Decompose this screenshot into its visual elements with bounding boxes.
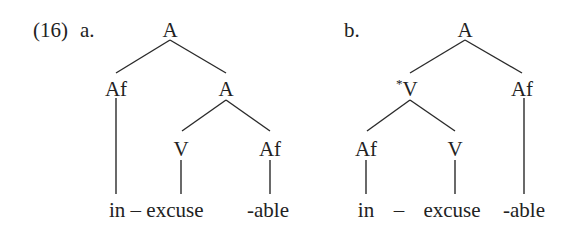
node-b-root: A <box>457 18 473 42</box>
leaf-b-dash: – <box>393 198 405 222</box>
leaf-a-in-excuse: in – excuse <box>109 198 203 222</box>
node-a-root: A <box>162 18 178 42</box>
node-a-v: V <box>173 137 188 161</box>
edge-a-a-v <box>182 100 226 131</box>
edge-b-v-af <box>367 100 410 131</box>
node-a-left-af: Af <box>105 77 127 101</box>
leaf-a-able: -able <box>247 198 289 222</box>
tree-b: A * V Af Af V in – excuse -able <box>355 18 545 222</box>
node-b-af: Af <box>355 137 377 161</box>
tree-a: A Af A V Af in – excuse -able <box>105 18 289 222</box>
edge-a-root-right <box>170 40 226 73</box>
edge-b-root-right <box>465 40 522 73</box>
node-b-right-af: Af <box>511 77 533 101</box>
node-b-left-v: V <box>402 77 417 101</box>
leaf-b-in: in <box>358 198 375 222</box>
node-a-af: Af <box>259 137 281 161</box>
edge-a-root-left <box>116 40 170 73</box>
tree-b-label: b. <box>344 18 360 42</box>
tree-a-label: a. <box>80 18 95 42</box>
edge-b-v-v <box>410 100 455 131</box>
leaf-b-able: -able <box>503 198 545 222</box>
node-b-v: V <box>447 137 462 161</box>
edge-a-a-af <box>226 100 270 131</box>
morphology-tree-diagram: (16) a. A Af A V Af in – excuse -able b.… <box>0 0 577 230</box>
leaf-b-excuse: excuse <box>423 198 480 222</box>
node-a-right-a: A <box>218 77 234 101</box>
edge-b-root-left <box>410 40 465 73</box>
example-number: (16) <box>33 18 68 42</box>
